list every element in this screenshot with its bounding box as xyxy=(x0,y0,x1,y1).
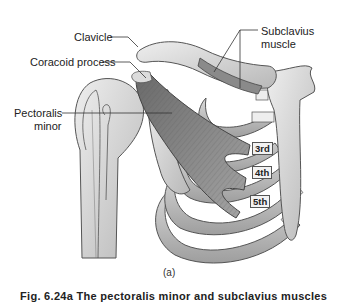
label-coracoid-process: Coracoid process xyxy=(30,56,116,68)
rib-tag-3rd: 3rd xyxy=(252,142,273,155)
panel-label: (a) xyxy=(163,267,175,278)
humerus xyxy=(75,79,144,258)
label-pectoralis-line1: Pectoralis xyxy=(14,107,62,119)
clavicle-leader xyxy=(110,37,138,47)
rib-tag-4th: 4th xyxy=(252,166,272,179)
rib-tag-5th: 5th xyxy=(250,195,270,208)
label-pectoralis-line2: minor xyxy=(34,120,62,132)
figure-caption: Fig. 6.24a The pectoralis minor and subc… xyxy=(20,290,327,302)
label-clavicle: Clavicle xyxy=(74,31,113,43)
label-subclavius-line2: muscle xyxy=(261,38,296,50)
label-subclavius-line1: Subclavius xyxy=(261,25,314,37)
